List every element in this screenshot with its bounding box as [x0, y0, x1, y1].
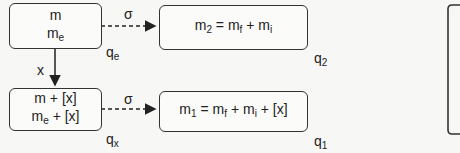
partial-box-right: [448, 5, 460, 134]
label-qx: qx: [106, 131, 119, 149]
state-q2-formula: m2 = mf + mi: [195, 16, 273, 39]
x-edge-label: x: [37, 62, 44, 78]
state-qx-box: m + [x] me + [x]: [9, 88, 102, 131]
label-q2: q2: [314, 50, 327, 68]
sigma-label-top: σ: [124, 6, 133, 22]
state-q1-formula: m1 = mf + mi + [x]: [179, 100, 287, 123]
label-qe: qe: [106, 44, 119, 62]
state-q1-box: m1 = mf + mi + [x]: [159, 91, 308, 132]
state-qe-line1: m: [50, 6, 62, 24]
state-qx-line1: m + [x]: [34, 89, 76, 107]
state-qx-line2: me + [x]: [32, 107, 80, 130]
state-qe-box: m me: [9, 3, 102, 49]
sigma-label-bottom: σ: [124, 91, 133, 107]
state-q2-box: m2 = mf + mi: [159, 5, 308, 50]
label-q1: q1: [314, 133, 327, 151]
state-qe-line2: me: [47, 24, 64, 47]
